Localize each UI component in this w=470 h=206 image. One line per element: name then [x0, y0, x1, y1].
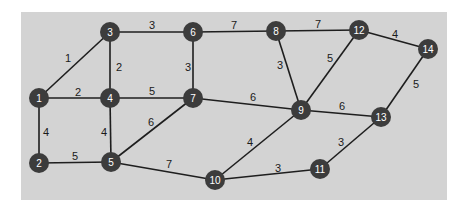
edge-weight-8-12: 7 [315, 18, 321, 30]
node-3: 3 [100, 22, 120, 42]
edge-weight-5-7: 6 [148, 116, 154, 128]
node-5: 5 [101, 152, 121, 172]
edge-weight-4-7: 5 [149, 85, 155, 97]
edge-weight-6-7: 3 [185, 61, 191, 73]
edge-weight-9-13: 6 [339, 100, 345, 112]
edge-weight-11-13: 3 [338, 136, 344, 148]
edge-weight-1-4: 2 [75, 86, 81, 98]
node-label: 13 [375, 112, 387, 123]
edge-weight-12-9: 5 [327, 52, 333, 64]
node-7: 7 [183, 88, 203, 108]
edge-weight-5-10: 7 [166, 158, 172, 170]
node-label: 7 [190, 93, 196, 104]
node-1: 1 [29, 88, 49, 108]
edge-weight-3-4: 2 [116, 61, 122, 73]
node-label: 6 [190, 27, 196, 38]
node-8: 8 [266, 21, 286, 41]
diagram-background-panel [21, 12, 447, 200]
node-label: 11 [315, 164, 326, 175]
edge-weight-7-9: 6 [250, 91, 256, 103]
node-2: 2 [29, 153, 49, 173]
node-12: 12 [349, 20, 369, 40]
graph-diagram: 1243237545676735464335 12345678910111213… [0, 0, 470, 206]
edge-weight-8-9: 3 [277, 59, 283, 71]
node-label: 9 [298, 105, 304, 116]
node-label: 12 [353, 25, 365, 36]
node-label: 2 [36, 158, 42, 169]
node-label: 3 [107, 27, 113, 38]
edge-weight-4-5: 4 [101, 126, 107, 138]
node-9: 9 [291, 100, 311, 120]
node-10: 10 [205, 170, 225, 190]
node-14: 14 [418, 39, 438, 59]
edge-weight-3-6: 3 [149, 19, 155, 31]
node-label: 1 [36, 93, 42, 104]
node-13: 13 [371, 107, 391, 127]
node-label: 5 [108, 157, 114, 168]
edge-weight-6-8: 7 [231, 19, 237, 31]
edge-weight-2-5: 5 [72, 150, 78, 162]
node-6: 6 [183, 22, 203, 42]
node-label: 8 [273, 26, 279, 37]
node-label: 10 [209, 175, 221, 186]
node-label: 14 [422, 44, 434, 55]
node-label: 4 [107, 93, 113, 104]
edge-2-5 [39, 162, 111, 163]
edge-weight-14-13: 5 [413, 78, 419, 90]
edge-weight-9-10: 4 [247, 136, 253, 148]
edge-weight-1-2: 4 [43, 126, 49, 138]
edge-6-8 [193, 31, 276, 32]
edge-weight-10-11: 3 [275, 162, 281, 174]
node-4: 4 [100, 88, 120, 108]
edge-8-12 [276, 30, 359, 31]
edge-weight-1-3: 1 [65, 52, 71, 64]
node-11: 11 [310, 159, 330, 179]
edge-weight-12-14: 4 [392, 28, 398, 40]
